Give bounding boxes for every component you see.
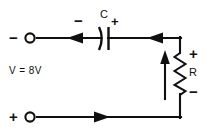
resistor-symbol: [175, 53, 186, 95]
bottom-current-arrow: [94, 112, 110, 123]
circuit-diagram: − + V = 8V − C + + R −: [0, 0, 212, 138]
resistor-current-arrow: [160, 50, 170, 64]
capacitor-negative-sign: −: [74, 13, 83, 28]
positive-terminal-node: [25, 112, 34, 121]
top-right-current-arrow: [147, 33, 163, 44]
resistor-label: R: [189, 67, 197, 78]
capacitor-positive-sign: +: [111, 15, 119, 28]
negative-terminal-node: [25, 33, 34, 42]
resistor-positive-sign: +: [189, 46, 198, 61]
negative-terminal-sign: −: [9, 30, 18, 45]
source-voltage-label: V = 8V: [9, 66, 42, 76]
resistor-negative-sign: −: [189, 84, 198, 99]
positive-terminal-sign: +: [9, 109, 18, 124]
top-left-current-arrow: [67, 33, 83, 44]
capacitor-label: C: [100, 9, 108, 20]
